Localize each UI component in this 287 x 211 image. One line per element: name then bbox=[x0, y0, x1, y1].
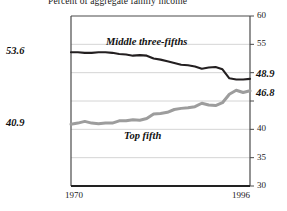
series-label-top-fifth: Top fifth bbox=[124, 130, 161, 141]
middle-three-fifths-end-value: 48.9 bbox=[256, 68, 274, 79]
series-line-middle-three-fifths bbox=[71, 52, 250, 79]
y-tick-label: 60 bbox=[257, 10, 266, 20]
x-tick-label: 1996 bbox=[232, 190, 250, 200]
top-fifth-start-value: 40.9 bbox=[6, 117, 24, 128]
axis-ticks bbox=[250, 16, 254, 186]
top-fifth-end-value: 46.8 bbox=[256, 87, 274, 98]
y-tick-label: 40 bbox=[257, 123, 266, 133]
series-line-top-fifth bbox=[71, 90, 250, 124]
income-share-line-chart: Percent of aggregate family income 30354… bbox=[0, 0, 287, 211]
y-tick-label: 30 bbox=[257, 180, 266, 190]
series-lines bbox=[71, 52, 250, 124]
y-tick-label: 35 bbox=[257, 152, 266, 162]
x-tick-label: 1970 bbox=[65, 190, 83, 200]
middle-three-fifths-start-value: 53.6 bbox=[6, 45, 24, 56]
series-label-middle-three-fifths: Middle three-fifths bbox=[106, 36, 187, 47]
y-tick-label: 55 bbox=[257, 38, 266, 48]
plot-area bbox=[0, 0, 287, 211]
